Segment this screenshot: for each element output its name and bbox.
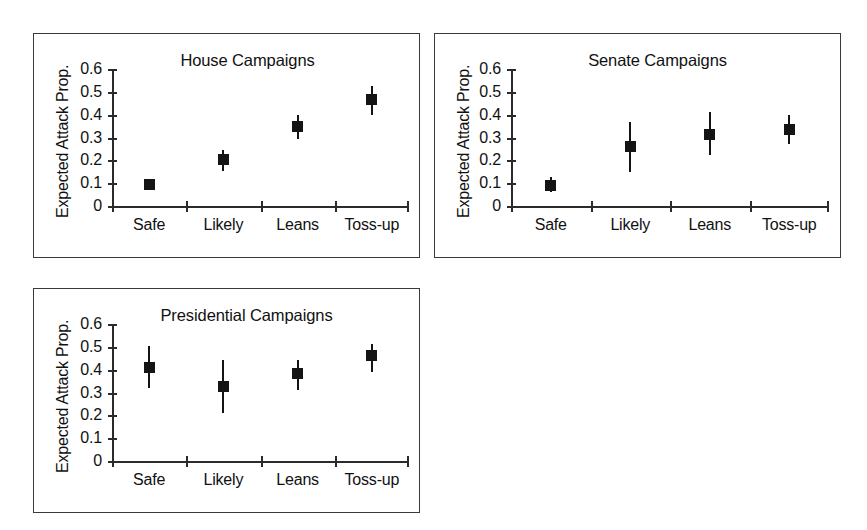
x-axis-tick	[407, 456, 409, 467]
y-axis-tick	[108, 69, 117, 71]
y-axis-tick	[507, 138, 516, 140]
y-axis-tick-label: 0.6	[66, 60, 102, 78]
x-axis-tick	[112, 456, 114, 467]
y-axis-tick-label: 0.2	[66, 151, 102, 169]
y-axis-tick	[507, 92, 516, 94]
y-axis-tick-label: 0.5	[66, 338, 102, 356]
x-axis-tick	[407, 201, 409, 212]
y-axis-tick-label: 0.3	[66, 384, 102, 402]
y-axis-tick	[507, 183, 516, 185]
data-point-marker	[218, 381, 229, 392]
y-axis-tick-label: 0	[66, 197, 102, 215]
y-axis-tick-label: 0.5	[465, 83, 501, 101]
x-axis-tick	[186, 201, 188, 212]
x-axis-tick	[750, 201, 752, 212]
data-point-marker	[366, 350, 377, 361]
figure-canvas: House Campaigns Expected Attack Prop.0.6…	[0, 0, 867, 530]
y-axis-tick	[108, 324, 117, 326]
data-point-marker	[366, 94, 377, 105]
x-axis-tick	[335, 456, 337, 467]
y-axis-tick-label: 0.2	[66, 406, 102, 424]
data-point-marker	[545, 180, 556, 191]
data-point-marker	[144, 362, 155, 373]
y-axis-tick	[108, 347, 117, 349]
panel-senate-campaigns: Senate Campaigns Expected Attack Prop.0.…	[434, 33, 841, 258]
y-axis-tick-label: 0.3	[66, 129, 102, 147]
y-axis-tick	[108, 438, 117, 440]
y-axis-tick	[507, 115, 516, 117]
x-axis-tick-label: Toss-up	[739, 216, 841, 234]
y-axis-tick-label: 0.4	[66, 106, 102, 124]
y-axis-tick-label: 0.6	[465, 60, 501, 78]
x-axis-tick	[827, 201, 829, 212]
x-axis-tick	[186, 456, 188, 467]
y-axis-tick	[108, 415, 117, 417]
panel-presidential-campaigns: Presidential Campaigns Expected Attack P…	[33, 288, 420, 513]
y-axis-tick-label: 0	[66, 452, 102, 470]
data-point-marker	[704, 129, 715, 140]
x-axis-tick	[112, 201, 114, 212]
x-axis-tick	[511, 201, 513, 212]
data-point-marker	[292, 121, 303, 132]
x-axis-tick	[261, 201, 263, 212]
y-axis-tick	[108, 393, 117, 395]
data-point-marker	[218, 154, 229, 165]
x-axis-tick	[261, 456, 263, 467]
y-axis-tick	[108, 138, 117, 140]
y-axis-tick	[108, 370, 117, 372]
x-axis-tick	[335, 201, 337, 212]
y-axis-tick-label: 0.2	[465, 151, 501, 169]
plot-area-senate: Expected Attack Prop.0.60.50.40.30.20.10…	[435, 34, 840, 257]
x-axis-tick	[591, 201, 593, 212]
y-axis-tick-label: 0.3	[465, 129, 501, 147]
y-axis-tick	[507, 160, 516, 162]
y-axis-tick	[108, 160, 117, 162]
x-axis-tick-label: Toss-up	[324, 471, 420, 489]
plot-area-presidential: Expected Attack Prop.0.60.50.40.30.20.10…	[34, 289, 419, 512]
data-point-marker	[625, 141, 636, 152]
x-axis-tick-label: Toss-up	[324, 216, 420, 234]
y-axis-tick	[507, 69, 516, 71]
data-point-marker	[292, 368, 303, 379]
y-axis-tick	[108, 92, 117, 94]
y-axis-tick-label: 0.1	[465, 174, 501, 192]
y-axis-tick-label: 0.4	[66, 361, 102, 379]
y-axis-tick-label: 0.4	[465, 106, 501, 124]
y-axis-tick	[108, 183, 117, 185]
y-axis-tick-label: 0.1	[66, 429, 102, 447]
data-point-marker	[784, 124, 795, 135]
x-axis-tick	[670, 201, 672, 212]
y-axis-tick-label: 0.6	[66, 315, 102, 333]
y-axis-tick-label: 0.1	[66, 174, 102, 192]
y-axis-tick-label: 0.5	[66, 83, 102, 101]
y-axis-tick	[108, 115, 117, 117]
plot-area-house: Expected Attack Prop.0.60.50.40.30.20.10…	[34, 34, 419, 257]
y-axis-tick-label: 0	[465, 197, 501, 215]
panel-house-campaigns: House Campaigns Expected Attack Prop.0.6…	[33, 33, 420, 258]
data-point-marker	[144, 179, 155, 190]
